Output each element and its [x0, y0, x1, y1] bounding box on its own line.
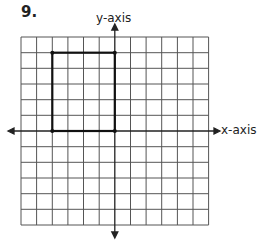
coordinate-grid — [0, 0, 263, 249]
